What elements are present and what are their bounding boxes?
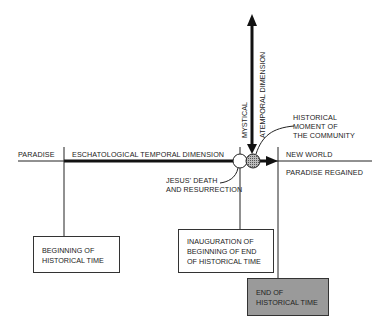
historical-moment-line-3: THE COMMUNITY: [293, 131, 355, 140]
historical-moment-line-2: MOMENT OF: [293, 122, 355, 131]
inauguration-line-3: OF HISTORICAL TIME: [187, 257, 265, 267]
mystical-label: MYSTICAL: [240, 102, 249, 138]
atemporal-label: ATEMPORAL DIMENSION: [258, 52, 267, 138]
historical-moment-label: HISTORICAL MOMENT OF THE COMMUNITY: [293, 113, 355, 140]
eschatological-arrowhead-icon: [266, 156, 278, 166]
jesus-line-2: AND RESURRECTION: [166, 185, 242, 194]
end-box: END OF HISTORICAL TIME: [247, 278, 329, 316]
beginning-line-1: BEGINNING OF: [42, 246, 111, 256]
beginning-box: BEGINNING OF HISTORICAL TIME: [33, 236, 120, 273]
beginning-line-2: HISTORICAL TIME: [42, 256, 111, 266]
jesus-circle-icon: [233, 154, 247, 168]
inauguration-line-2: BEGINNING OF END: [187, 247, 265, 257]
end-line-1: END OF: [256, 288, 320, 298]
historical-moment-line-1: HISTORICAL: [293, 113, 355, 122]
community-circle-icon: [246, 154, 260, 168]
inauguration-box: INAUGURATION OF BEGINNING OF END OF HIST…: [178, 229, 274, 273]
paradise-regained-label: PARADISE REGAINED: [286, 168, 363, 177]
end-line-2: HISTORICAL TIME: [256, 298, 320, 308]
eschatological-label: ESCHATOLOGICAL TEMPORAL DIMENSION: [72, 150, 224, 159]
paradise-label: PARADISE: [18, 150, 55, 159]
jesus-line-1: JESUS' DEATH: [166, 176, 242, 185]
mystical-arrowhead-down-icon: [247, 144, 257, 154]
new-world-label: NEW WORLD: [286, 150, 332, 159]
diagram-canvas: [0, 0, 388, 330]
mystical-arrowhead-up-icon: [247, 14, 257, 26]
inauguration-line-1: INAUGURATION OF: [187, 237, 265, 247]
jesus-death-label: JESUS' DEATH AND RESURRECTION: [166, 176, 242, 194]
